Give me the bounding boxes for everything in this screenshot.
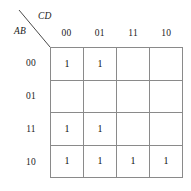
row-header-0: 00 <box>16 47 46 80</box>
column-header-2: 11 <box>117 25 150 41</box>
kmap-cell[interactable] <box>150 81 183 114</box>
kmap-cell[interactable]: 1 <box>51 113 84 146</box>
kmap-row <box>51 81 183 114</box>
column-header-0: 00 <box>50 25 83 41</box>
column-header-3: 10 <box>150 25 183 41</box>
kmap-cell[interactable] <box>117 48 150 81</box>
kmap-row: 1 1 <box>51 48 183 81</box>
kmap-cell[interactable] <box>117 113 150 146</box>
kmap-cell[interactable]: 1 <box>117 146 150 179</box>
kmap-cell[interactable]: 1 <box>150 146 183 179</box>
column-header-row: 00 01 11 10 <box>50 25 183 41</box>
kmap-cell[interactable] <box>84 81 117 114</box>
row-header-1: 01 <box>16 80 46 113</box>
kmap-cell[interactable] <box>117 81 150 114</box>
column-axis-label: CD <box>38 12 52 22</box>
kmap-cell[interactable]: 1 <box>84 48 117 81</box>
kmap-cell[interactable] <box>150 48 183 81</box>
kmap-grid: 1 1 1 1 1 1 1 1 <box>50 47 183 178</box>
kmap-cell[interactable]: 1 <box>51 146 84 179</box>
row-header-2: 11 <box>16 113 46 146</box>
column-header-1: 01 <box>83 25 116 41</box>
kmap-cell[interactable]: 1 <box>84 146 117 179</box>
karnaugh-map-figure: CD AB 00 01 11 10 00 01 11 10 1 1 1 1 <box>0 0 191 191</box>
kmap-row: 1 1 1 1 <box>51 146 183 179</box>
kmap-cell[interactable]: 1 <box>51 48 84 81</box>
row-axis-label: AB <box>14 27 26 37</box>
row-header-3: 10 <box>16 145 46 178</box>
kmap-cell[interactable]: 1 <box>84 113 117 146</box>
row-header-column: 00 01 11 10 <box>16 47 46 178</box>
kmap-cell[interactable] <box>150 113 183 146</box>
kmap-row: 1 1 <box>51 113 183 146</box>
kmap-cell[interactable] <box>51 81 84 114</box>
